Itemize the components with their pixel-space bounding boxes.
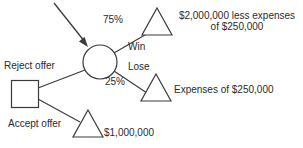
edge-reject-offer	[38, 70, 85, 88]
payoff-label-accept: $1,000,000	[104, 127, 154, 138]
probability-label-win: 75%	[103, 14, 123, 25]
decision-node-square	[12, 81, 39, 108]
terminal-node-win-triangle	[142, 8, 172, 35]
branch-label-reject-offer: Reject offer	[4, 60, 55, 71]
payoff-label-lose: Expenses of $250,000	[174, 84, 274, 95]
terminal-node-lose-triangle	[141, 74, 171, 101]
payoff-label-win-line2: of $250,000	[174, 21, 300, 32]
terminal-node-accept-triangle	[73, 110, 103, 137]
branch-label-lose: Lose	[128, 61, 150, 72]
branch-label-win: Win	[128, 41, 145, 52]
incoming-arrow-icon	[54, 3, 88, 47]
branch-label-accept-offer: Accept offer	[8, 118, 61, 129]
payoff-label-win: $2,000,000 less expenses of $250,000	[174, 10, 300, 32]
decision-tree-diagram: 75% Win Lose 25% Reject offer Accept off…	[0, 0, 303, 148]
probability-label-lose: 25%	[105, 76, 125, 87]
chance-node-circle	[83, 45, 117, 79]
payoff-label-win-line1: $2,000,000 less expenses	[174, 10, 300, 21]
